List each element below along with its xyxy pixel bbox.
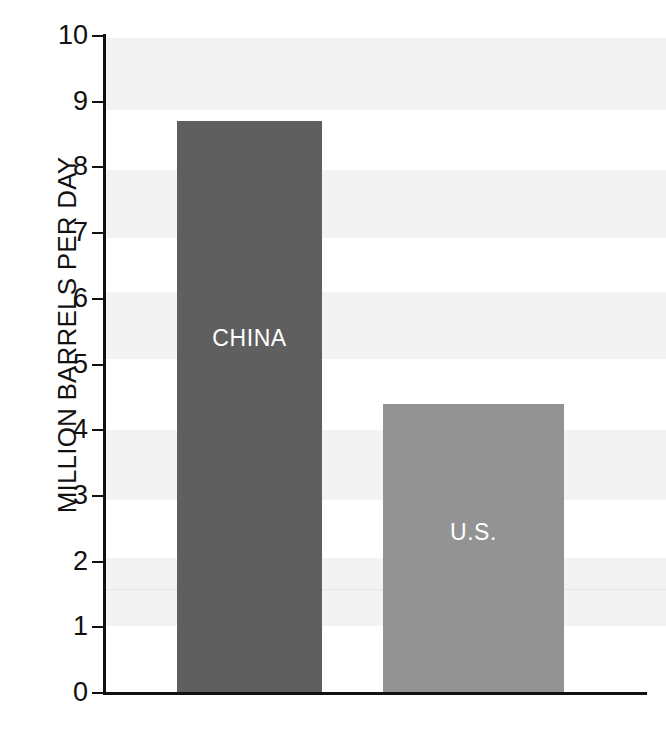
y-axis-tick-label: 0: [0, 679, 88, 706]
y-axis-tick-mark: [92, 232, 104, 234]
y-axis-tick-label-text: 10: [8, 22, 88, 49]
bar-china-label: CHINA: [177, 327, 322, 350]
bar-us-label: U.S.: [383, 521, 564, 544]
bar-chart-figure: CHINA U.S. 109876543210 MILLION BARRELS …: [0, 0, 666, 733]
y-axis-tick-mark: [92, 495, 104, 497]
y-axis-tick-mark: [92, 298, 104, 300]
plot-area: CHINA U.S. 109876543210 MILLION BARRELS …: [0, 0, 666, 733]
y-axis-tick-mark: [92, 429, 104, 431]
bar-china[interactable]: CHINA: [177, 121, 322, 693]
y-axis-tick-mark: [92, 35, 104, 37]
y-axis-tick-mark: [92, 626, 104, 628]
y-axis-tick-mark: [92, 101, 104, 103]
y-axis-tick-mark: [92, 364, 104, 366]
y-axis-tick-label: 9: [0, 88, 88, 115]
y-axis-tick-mark: [92, 561, 104, 563]
y-axis-tick-label-text: 0: [8, 679, 88, 706]
y-axis-title: MILLION BARRELS PER DAY: [54, 125, 80, 545]
y-axis-tick-label: 10: [0, 22, 88, 49]
y-axis-tick-label: 2: [0, 548, 88, 575]
bar-us[interactable]: U.S.: [383, 404, 564, 693]
x-axis-line: [103, 692, 647, 695]
y-axis-tick-mark: [92, 692, 104, 694]
y-axis-tick-label-text: 1: [8, 613, 88, 640]
y-axis-tick-label: 1: [0, 613, 88, 640]
y-axis-tick-label-text: 9: [8, 88, 88, 115]
y-axis-tick-mark: [92, 166, 104, 168]
y-axis-tick-label-text: 2: [8, 548, 88, 575]
